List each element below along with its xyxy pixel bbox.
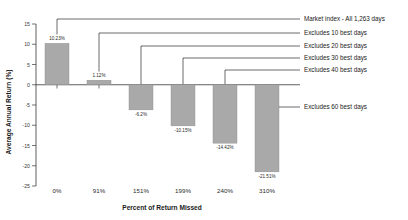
y-tick-label: -5: [25, 102, 30, 108]
y-tick-label: -20: [23, 163, 31, 169]
bar-chart: Average Annual Return (%) 15 10 5 0 -5 -…: [0, 0, 408, 220]
bar-0[interactable]: [45, 43, 69, 84]
x-tick-label: 199%: [175, 187, 191, 194]
x-tick-label: 0%: [53, 187, 62, 194]
x-tick-label: 151%: [133, 187, 149, 194]
x-tick-label: 240%: [217, 187, 233, 194]
x-axis-title: Percent of Return Missed: [122, 204, 202, 211]
bar-label-4: -14.42%: [216, 145, 233, 150]
bar-1[interactable]: [87, 80, 111, 85]
y-tick-label: 5: [27, 62, 30, 68]
leader-line-3: [183, 58, 300, 84]
bar-3[interactable]: [171, 85, 195, 126]
y-axis-tick-labels: 15 10 5 0 -5 -10 -15 -20 -25: [23, 21, 31, 189]
y-tick-label: -15: [23, 143, 31, 149]
leader-line-1: [99, 33, 300, 72]
x-tick-label: 91%: [93, 187, 106, 194]
x-tick-label: 310%: [259, 187, 275, 194]
annotation-4: Excludes 40 best days: [304, 66, 367, 74]
y-tick-label: 15: [24, 21, 30, 27]
bar-5[interactable]: [255, 85, 279, 172]
annotation-labels: Market index - All 1,263 days Excludes 1…: [304, 15, 385, 111]
x-axis-tick-labels: 0% 91% 151% 199% 240% 310%: [53, 187, 276, 194]
leader-line-0: [57, 19, 300, 35]
annotation-5: Excludes 60 best days: [304, 103, 367, 111]
leader-line-4: [225, 70, 300, 84]
y-tick-label: -25: [23, 183, 31, 189]
y-axis-title: Average Annual Return (%): [5, 70, 13, 155]
bar-label-1: 1.12%: [92, 73, 105, 78]
annotation-3: Excludes 30 best days: [304, 54, 367, 62]
bar-label-5: -21.51%: [258, 174, 275, 179]
bar-label-2: -6.2%: [135, 112, 147, 117]
annotation-0: Market index - All 1,263 days: [304, 15, 385, 23]
y-axis-ticks: [32, 24, 36, 186]
bar-label-0: 10.23%: [49, 36, 65, 41]
annotation-1: Excludes 10 best days: [304, 29, 367, 37]
leader-line-2: [141, 46, 300, 84]
bar-label-3: -10.15%: [174, 128, 191, 133]
bars-group: [45, 43, 279, 172]
bar-2[interactable]: [129, 85, 153, 110]
bar-value-labels: 10.23% 1.12% -6.2% -10.15% -14.42% -21.5…: [49, 36, 275, 178]
y-tick-label: -10: [23, 122, 31, 128]
bar-4[interactable]: [213, 85, 237, 143]
y-tick-label: 10: [24, 41, 30, 47]
annotation-2: Excludes 20 best days: [304, 42, 367, 50]
y-tick-label: 0: [27, 82, 30, 88]
